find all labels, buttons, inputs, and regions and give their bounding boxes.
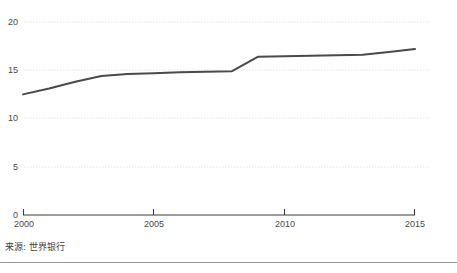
x-axis-label-2010: 2010 xyxy=(265,219,305,229)
line-chart: 20 15 10 5 0 2000 2005 2010 2015 来源: 世界银… xyxy=(0,0,457,273)
x-axis-label-2015: 2015 xyxy=(395,219,435,229)
bottom-divider xyxy=(0,262,457,263)
y-axis-label-20: 20 xyxy=(0,17,18,27)
source-note: 来源: 世界银行 xyxy=(5,241,65,253)
x-axis-label-2005: 2005 xyxy=(134,219,174,229)
chart-plot-area xyxy=(0,0,457,273)
y-axis-label-15: 15 xyxy=(0,65,18,75)
data-series-line xyxy=(23,49,415,94)
x-axis-label-2000: 2000 xyxy=(4,219,44,229)
y-axis-label-10: 10 xyxy=(0,113,18,123)
y-axis-label-5: 5 xyxy=(0,162,18,172)
